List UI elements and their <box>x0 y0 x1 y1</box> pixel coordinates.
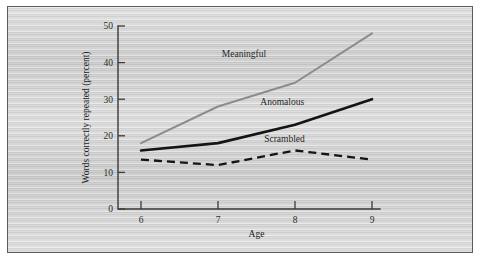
y-axis-ticks: 01020304050 <box>104 21 126 214</box>
figure-panel: 01020304050 6789 Meaningful Anomalous Sc… <box>7 6 473 253</box>
y-tick-label: 10 <box>104 168 114 178</box>
series-label-meaningful: Meaningful <box>222 49 267 59</box>
series-line-scrambled <box>141 150 372 165</box>
x-tick-label: 7 <box>216 215 221 225</box>
y-tick-label: 50 <box>104 21 114 31</box>
series-line-anomalous <box>141 99 372 150</box>
y-tick-label: 30 <box>104 95 114 105</box>
x-axis-title: Age <box>249 229 265 239</box>
series-label-scrambled: Scrambled <box>264 134 305 144</box>
line-chart: 01020304050 6789 Meaningful Anomalous Sc… <box>8 7 474 254</box>
x-axis-ticks: 6789 <box>139 201 375 225</box>
y-tick-label: 20 <box>104 131 114 141</box>
y-tick-label: 40 <box>104 58 114 68</box>
x-tick-label: 6 <box>139 215 144 225</box>
x-tick-label: 8 <box>293 215 298 225</box>
series-label-anomalous: Anomalous <box>260 97 304 107</box>
y-tick-label: 0 <box>108 204 113 214</box>
figure-page: 01020304050 6789 Meaningful Anomalous Sc… <box>0 0 481 260</box>
x-tick-label: 9 <box>370 215 375 225</box>
y-axis-title: Words correctly repeated (percent) <box>81 52 92 184</box>
